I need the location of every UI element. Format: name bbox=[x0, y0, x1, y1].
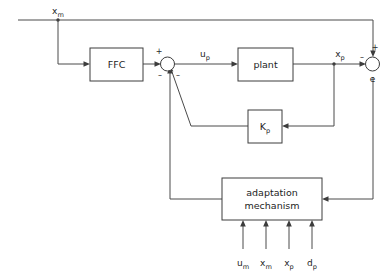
block-label-kp: Kp bbox=[260, 121, 270, 135]
signal-label-xp-sub: p bbox=[341, 54, 345, 62]
sign-error-plus: + bbox=[372, 43, 379, 52]
input-label-xm: xm bbox=[260, 258, 272, 271]
input-label-xp-sub: p bbox=[290, 263, 294, 271]
sign-sum-left-minus-a: – bbox=[158, 71, 162, 80]
input-label-dp-sub: p bbox=[313, 263, 317, 271]
wire-adaptation-to-sum-junction bbox=[170, 73, 222, 199]
summing-junction-left[interactable] bbox=[161, 57, 175, 71]
input-label-xm-sub: m bbox=[265, 263, 271, 271]
arrowhead-into-ffc bbox=[84, 61, 91, 67]
sign-sum-left-plus: + bbox=[156, 47, 163, 56]
wire-xm-top-to-error-junction bbox=[18, 20, 373, 52]
arrowhead-xp-into-adaptation bbox=[286, 220, 292, 227]
input-label-um-sub: m bbox=[243, 263, 249, 271]
input-label-dp: dp bbox=[307, 258, 317, 271]
block-label-adaptation-line2: mechanism bbox=[244, 200, 299, 211]
signal-label-xp: xp bbox=[335, 49, 345, 62]
arrowhead-error-into-adaptation bbox=[322, 196, 329, 202]
arrowhead-xm-into-adaptation bbox=[263, 220, 269, 227]
wire-xm-branch-to-ffc bbox=[58, 20, 84, 64]
block-label-kp-sub: p bbox=[266, 127, 270, 135]
wire-kp-to-sum-junction bbox=[172, 72, 248, 126]
summing-junction-error[interactable] bbox=[366, 57, 380, 71]
block-diagram-svg: FFC plant Kp adaptation mechanism xm up … bbox=[0, 0, 387, 277]
input-label-xp: xp bbox=[284, 258, 294, 271]
sign-sum-left-minus-b: – bbox=[176, 71, 180, 80]
block-label-adaptation-line1: adaptation bbox=[246, 187, 297, 198]
arrowhead-into-plant bbox=[232, 61, 239, 67]
wire-xp-to-kp bbox=[288, 64, 334, 126]
arrowhead-into-kp bbox=[282, 123, 289, 129]
block-adaptation-mechanism[interactable] bbox=[222, 178, 322, 220]
signal-label-up: up bbox=[200, 49, 210, 62]
block-diagram-canvas: FFC plant Kp adaptation mechanism xm up … bbox=[0, 0, 387, 277]
arrowhead-um-into-adaptation bbox=[240, 220, 246, 227]
sign-error-minus: – bbox=[360, 53, 364, 62]
signal-label-xm-top: xm bbox=[52, 6, 64, 19]
block-label-plant: plant bbox=[253, 59, 278, 70]
input-label-um: um bbox=[237, 258, 249, 271]
wire-error-to-adaptation bbox=[328, 77, 373, 199]
arrowhead-dp-into-adaptation bbox=[309, 220, 315, 227]
signal-label-up-sub: p bbox=[206, 54, 210, 62]
signal-label-e: e bbox=[370, 74, 376, 84]
signal-label-xm-top-sub: m bbox=[57, 11, 63, 19]
block-label-ffc: FFC bbox=[108, 59, 126, 70]
